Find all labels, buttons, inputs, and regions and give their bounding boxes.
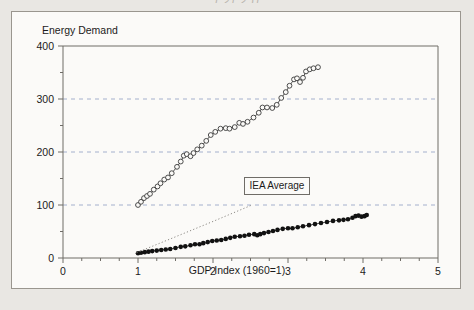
- data-point: [204, 138, 209, 143]
- data-point: [191, 151, 196, 156]
- data-point: [232, 125, 237, 130]
- data-point: [227, 126, 232, 131]
- page-top-text-remnant: 1,21 2,)1: [0, 0, 474, 3]
- data-point: [188, 243, 193, 248]
- data-point: [279, 96, 284, 101]
- y-tick-label: 100: [36, 199, 54, 211]
- data-point: [193, 242, 198, 247]
- data-point: [159, 248, 164, 253]
- data-point: [271, 229, 276, 234]
- data-point: [346, 217, 351, 222]
- iea-average-annotation: IEA Average: [244, 177, 311, 195]
- y-tick-label: 400: [36, 40, 54, 52]
- data-point: [295, 225, 300, 230]
- data-point: [245, 119, 250, 124]
- data-point: [287, 83, 292, 88]
- data-point: [325, 220, 330, 225]
- data-point: [178, 159, 183, 164]
- data-point: [290, 226, 295, 231]
- chart-plot-area: 0100200300400012345: [12, 12, 460, 288]
- data-point: [262, 231, 267, 236]
- data-point: [232, 235, 237, 240]
- figure-page: 1,21 2,)1 Energy Demand 0100200300400012…: [0, 0, 474, 310]
- data-point: [331, 219, 336, 224]
- data-point: [175, 164, 180, 169]
- data-point: [168, 247, 173, 252]
- data-point: [166, 175, 171, 180]
- data-point: [154, 248, 159, 253]
- data-point: [238, 234, 243, 239]
- data-point: [275, 228, 280, 233]
- data-point: [307, 223, 312, 228]
- data-point: [199, 143, 204, 148]
- data-point: [301, 75, 306, 80]
- data-point: [219, 238, 224, 243]
- data-point: [223, 237, 228, 242]
- data-point: [341, 218, 346, 223]
- y-tick-label: 300: [36, 93, 54, 105]
- data-point: [256, 110, 261, 115]
- data-point: [201, 241, 206, 246]
- data-point: [251, 115, 256, 120]
- data-point: [218, 126, 223, 131]
- data-point: [183, 244, 188, 249]
- data-point: [298, 80, 303, 85]
- data-point: [158, 181, 163, 186]
- data-point: [301, 224, 306, 229]
- x-axis-title: GDP Index (1960=1): [12, 264, 462, 276]
- figure-container: Energy Demand 0100200300400012345 IEA Av…: [11, 11, 461, 289]
- data-point: [178, 245, 183, 250]
- data-point: [247, 232, 252, 237]
- data-point: [148, 191, 153, 196]
- data-point: [364, 213, 369, 218]
- data-point: [280, 227, 285, 232]
- data-point: [208, 133, 213, 138]
- data-point: [274, 102, 279, 107]
- data-point: [205, 240, 210, 245]
- data-point: [195, 147, 200, 152]
- data-point: [173, 246, 178, 251]
- data-point: [213, 129, 218, 134]
- data-point: [311, 66, 316, 71]
- data-point: [283, 90, 288, 95]
- data-point: [313, 222, 318, 227]
- data-point: [169, 171, 174, 176]
- data-point: [150, 249, 155, 254]
- data-point: [266, 230, 271, 235]
- data-point: [163, 247, 168, 252]
- data-point: [319, 221, 324, 226]
- data-point: [214, 238, 219, 243]
- data-point: [228, 236, 233, 241]
- data-point: [210, 239, 215, 244]
- y-tick-label: 0: [48, 252, 54, 264]
- data-point: [265, 105, 270, 110]
- data-point: [242, 233, 247, 238]
- data-point: [316, 65, 321, 70]
- data-point: [270, 106, 275, 111]
- data-point: [337, 218, 342, 223]
- data-point: [286, 226, 291, 231]
- data-point: [241, 122, 246, 127]
- y-tick-label: 200: [36, 146, 54, 158]
